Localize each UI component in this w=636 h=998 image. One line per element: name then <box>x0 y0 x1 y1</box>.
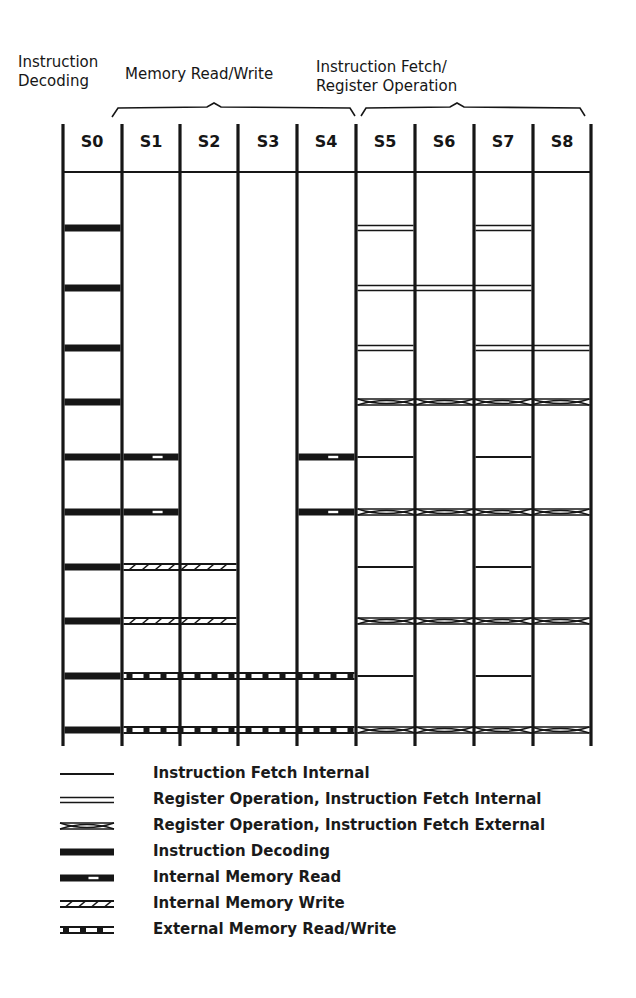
transition-segment-internal-memory-read <box>299 509 355 516</box>
legend-item-register-op-fetch-external: Register Operation, Instruction Fetch Ex… <box>58 814 636 838</box>
thick-bar-icon <box>58 846 116 858</box>
transition-row <box>65 727 590 734</box>
brace-memory-read-write <box>112 103 355 117</box>
legend-item-instruction-decoding: Instruction Decoding <box>58 840 636 864</box>
double-line-icon <box>58 794 116 806</box>
legend-item-instruction-fetch-internal: Instruction Fetch Internal <box>58 762 636 786</box>
legend-label: Register Operation, Instruction Fetch Ex… <box>153 816 545 834</box>
transition-segment-instruction-decoding <box>65 564 121 571</box>
thick-bar-with-gap-icon <box>58 872 116 884</box>
legend-label: Instruction Decoding <box>153 842 330 860</box>
legend-item-external-memory-rw: External Memory Read/Write <box>58 918 636 942</box>
transition-segment-instruction-decoding <box>65 673 121 680</box>
slashed-double-line-icon <box>58 898 116 910</box>
single-line-icon <box>58 768 116 780</box>
legend-label: Internal Memory Write <box>153 894 345 912</box>
transition-segment-instruction-decoding <box>65 345 121 352</box>
legend-item-internal-memory-write: Internal Memory Write <box>58 892 636 916</box>
legend-label: Internal Memory Read <box>153 868 341 886</box>
transition-segment-instruction-decoding <box>65 618 121 625</box>
transition-segment-register-op-fetch-internal <box>358 346 414 351</box>
legend-label: Instruction Fetch Internal <box>153 764 370 782</box>
column-dividers <box>63 124 591 746</box>
transition-segment-instruction-decoding <box>65 285 121 292</box>
transition-segment-register-op-fetch-internal <box>358 286 532 291</box>
transition-row <box>65 618 590 625</box>
legend-item-internal-memory-read: Internal Memory Read <box>58 866 636 890</box>
transition-row <box>65 345 590 352</box>
transition-segment-register-op-fetch-internal <box>358 226 414 231</box>
transition-segment-register-op-fetch-internal <box>476 226 532 231</box>
crossed-double-line-icon <box>58 820 116 832</box>
group-braces <box>112 103 585 117</box>
transition-segment-internal-memory-read <box>124 509 179 516</box>
transition-row <box>65 399 590 406</box>
legend-label: Register Operation, Instruction Fetch In… <box>153 790 541 808</box>
legend-item-register-op-fetch-internal: Register Operation, Instruction Fetch In… <box>58 788 636 812</box>
transition-row <box>65 673 532 680</box>
transition-row <box>65 509 590 516</box>
transition-segment-instruction-decoding <box>65 399 121 406</box>
transition-segment-internal-memory-read <box>299 454 355 461</box>
brace-fetch-register <box>361 103 585 116</box>
transition-segment-instruction-decoding <box>65 727 121 734</box>
transition-segment-internal-memory-read <box>124 454 179 461</box>
state-transition-lines <box>65 225 590 734</box>
transition-segment-instruction-decoding <box>65 509 121 516</box>
legend-label: External Memory Read/Write <box>153 920 397 938</box>
dashed-double-line-icon <box>58 924 116 936</box>
transition-segment-instruction-decoding <box>65 454 121 461</box>
transition-segment-instruction-decoding <box>65 225 121 232</box>
